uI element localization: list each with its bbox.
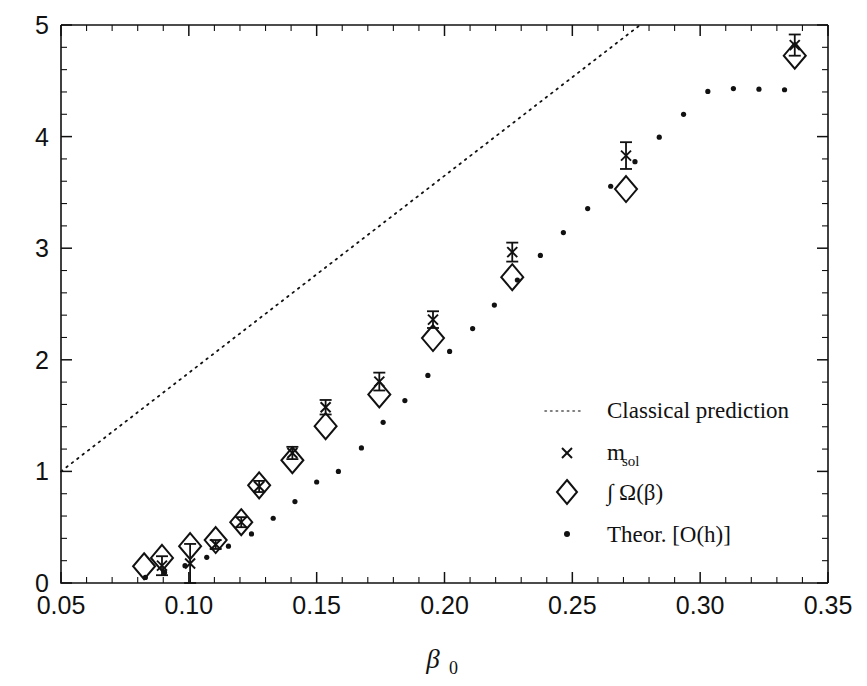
theor-data-point	[538, 253, 543, 258]
classical-prediction-line	[61, 25, 640, 471]
theor-data-point	[226, 544, 231, 549]
x-axis-tick-labels: 0.050.100.150.200.250.300.35	[37, 591, 853, 619]
y-tick-label: 1	[35, 457, 49, 485]
msol-data-point	[427, 311, 439, 328]
series-integral-omega	[133, 43, 806, 580]
msol-data-point	[210, 539, 222, 549]
omega-data-point	[501, 264, 523, 290]
dot-icon	[564, 531, 570, 537]
chart-figure: 0.050.100.150.200.250.300.35 012345 β 0 …	[0, 0, 867, 686]
theor-data-point	[608, 184, 613, 189]
msol-data-point	[253, 481, 265, 492]
x-tick-label: 0.30	[676, 591, 725, 619]
legend-item: ∫ Ω(β)	[557, 480, 663, 507]
legend-item: Theor. [O(h)]	[564, 522, 731, 547]
series-classical-prediction	[61, 25, 640, 471]
legend-item: Classical prediction	[545, 398, 790, 423]
theor-data-point	[585, 206, 590, 211]
theor-data-point	[561, 230, 566, 235]
theor-data-point	[632, 159, 637, 164]
legend-label: Classical prediction	[607, 398, 790, 423]
x-axis-ticks	[61, 25, 828, 583]
x-tick-label: 0.35	[804, 591, 853, 619]
y-tick-label: 5	[35, 11, 49, 39]
y-axis-tick-labels: 012345	[35, 11, 49, 597]
theor-data-point	[314, 479, 319, 484]
y-tick-label: 3	[35, 234, 49, 262]
y-tick-label: 0	[35, 569, 49, 597]
theor-data-point	[271, 516, 276, 521]
theor-data-point	[359, 445, 364, 450]
y-axis-ticks	[61, 25, 828, 583]
theor-data-point	[470, 326, 475, 331]
msol-data-point	[235, 517, 247, 527]
theor-data-point	[402, 398, 407, 403]
theor-data-point	[292, 499, 297, 504]
theor-data-point	[731, 86, 736, 91]
x-tick-label: 0.20	[420, 591, 469, 619]
theor-data-point	[681, 112, 686, 117]
omega-data-point	[315, 413, 337, 439]
x-axis-title: β 0	[425, 644, 458, 678]
omega-data-point	[615, 176, 637, 202]
theor-data-point	[381, 420, 386, 425]
x-axis-title-main: β	[425, 644, 440, 674]
legend-label: Theor. [O(h)]	[607, 522, 731, 547]
theor-data-point	[204, 555, 209, 560]
y-tick-label: 2	[35, 346, 49, 374]
legend-item: msol	[562, 440, 640, 469]
theor-data-point	[756, 87, 761, 92]
theor-data-point	[336, 469, 341, 474]
plot-axes	[61, 25, 828, 583]
x-tick-label: 0.15	[292, 591, 341, 619]
x-tick-label: 0.25	[548, 591, 597, 619]
theor-data-point	[492, 303, 497, 308]
chart-legend: Classical predictionmsol∫ Ω(β)Theor. [O(…	[545, 398, 790, 547]
diamond-icon	[557, 480, 577, 504]
theor-data-point	[705, 89, 710, 94]
legend-label-subscript: sol	[622, 453, 640, 469]
msol-data-point	[789, 34, 801, 55]
series-m-sol	[156, 34, 801, 583]
cross-icon	[562, 448, 572, 458]
y-tick-label: 4	[35, 123, 49, 151]
scatter-plot: 0.050.100.150.200.250.300.35 012345 β 0 …	[0, 0, 867, 686]
theor-data-point	[447, 349, 452, 354]
x-tick-label: 0.10	[164, 591, 213, 619]
theor-data-point	[657, 135, 662, 140]
theor-data-point	[782, 87, 787, 92]
theor-data-point	[425, 373, 430, 378]
x-axis-title-subscript: 0	[449, 658, 458, 678]
theor-data-point	[249, 531, 254, 536]
omega-data-point	[422, 325, 444, 351]
legend-label: ∫ Ω(β)	[605, 480, 663, 507]
msol-data-point	[320, 400, 332, 415]
msol-data-point	[506, 243, 518, 262]
msol-data-point	[620, 142, 632, 169]
